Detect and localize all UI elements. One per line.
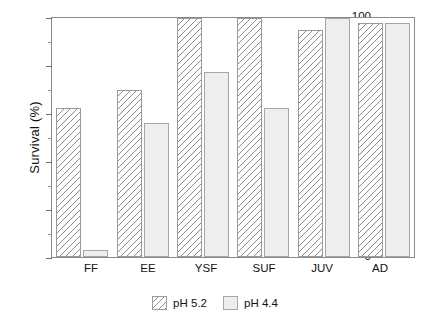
bar-ysf-ph-4-4 (204, 72, 229, 257)
bar-ff-ph-4-4 (83, 250, 108, 257)
x-tick-label-juv: JUV (292, 263, 352, 275)
y-minor-tick-30 (48, 186, 52, 187)
bar-ad-ph-5-2 (358, 23, 383, 257)
bar-ee-ph-4-4 (144, 123, 169, 257)
y-major-tick-100 (46, 18, 52, 19)
y-axis-title: Survival (%) (27, 58, 42, 218)
bar-ff-ph-5-2 (56, 108, 81, 257)
legend: pH 5.2 pH 4.4 (0, 296, 430, 310)
y-minor-tick-50 (48, 138, 52, 139)
y-major-tick-40 (46, 162, 52, 163)
legend-label-ph-4-4: pH 4.4 (244, 297, 278, 309)
y-minor-tick-10 (48, 234, 52, 235)
legend-swatch-hatched-icon (152, 296, 167, 310)
bar-juv-ph-5-2 (298, 30, 323, 257)
y-major-tick-80 (46, 66, 52, 67)
legend-entry-ph-4-4: pH 4.4 (223, 296, 278, 310)
legend-label-ph-5-2: pH 5.2 (173, 297, 207, 309)
y-major-tick-60 (46, 114, 52, 115)
y-minor-tick-70 (48, 90, 52, 91)
y-major-tick-0 (46, 258, 52, 259)
bar-juv-ph-4-4 (325, 18, 350, 257)
y-major-tick-20 (46, 210, 52, 211)
x-tick-label-ff: FF (61, 263, 121, 275)
x-tick-label-ysf: YSF (176, 263, 236, 275)
bar-ee-ph-5-2 (117, 90, 142, 257)
legend-swatch-solid-icon (223, 296, 238, 310)
legend-entry-ph-5-2: pH 5.2 (152, 296, 207, 310)
bar-suf-ph-4-4 (264, 108, 289, 257)
bar-ysf-ph-5-2 (177, 18, 202, 257)
x-tick-label-ad: AD (350, 263, 410, 275)
y-minor-tick-90 (48, 42, 52, 43)
x-tick-label-ee: EE (118, 263, 178, 275)
bar-suf-ph-5-2 (237, 18, 262, 257)
survival-bar-chart-figure: Survival (%) 100 80 60 40 20 0 FF EE YSF… (0, 0, 430, 328)
bar-ad-ph-4-4 (385, 23, 410, 257)
x-tick-label-suf: SUF (234, 263, 294, 275)
plot-area (51, 17, 415, 258)
